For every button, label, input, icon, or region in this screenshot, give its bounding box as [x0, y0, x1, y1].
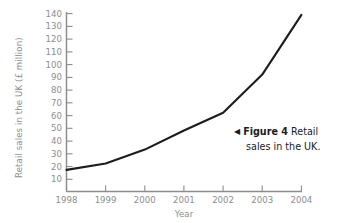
y-tick-label-110: 110 [46, 47, 62, 57]
x-tick-label-2000: 2000 [134, 195, 156, 205]
figure-container: Retail sales in the UK (£ million) 10 20 [0, 0, 357, 223]
y-tick-label-130: 130 [46, 21, 62, 31]
x-tick-label-2003: 2003 [251, 195, 273, 205]
y-tick-label-60: 60 [51, 111, 62, 121]
x-tick-label-2001: 2001 [173, 195, 195, 205]
caption-line-2: sales in the UK. [234, 139, 352, 154]
y-tick-label-70: 70 [51, 98, 62, 108]
y-tick-label-50: 50 [51, 123, 62, 133]
y-tick-label-140: 140 [46, 9, 62, 19]
y-tick-label-30: 30 [51, 149, 62, 159]
x-tick-label-2004: 2004 [290, 195, 312, 205]
caption-text-second: sales in the UK. [246, 141, 320, 152]
y-axis-title: Retail sales in the UK (£ million) [14, 37, 24, 178]
x-tick-label-1999: 1999 [95, 195, 117, 205]
caption-line-1: ◀Figure 4 Retail [234, 124, 352, 139]
triangle-left-icon: ◀ [234, 124, 240, 139]
y-tick-label-20: 20 [51, 162, 62, 172]
caption-text-first: Retail [291, 126, 318, 137]
x-axis-tick-labels: 1998 1999 2000 2001 2002 2003 2004 [56, 195, 313, 205]
x-tick-label-2002: 2002 [212, 195, 234, 205]
y-axis-tick-labels: 10 20 30 40 50 60 70 80 90 100 110 120 1… [46, 9, 62, 185]
y-tick-label-10: 10 [51, 174, 62, 184]
y-tick-label-90: 90 [51, 72, 62, 82]
y-tick-label-100: 100 [46, 60, 62, 70]
y-axis-ticks [67, 14, 73, 180]
y-tick-label-80: 80 [51, 85, 62, 95]
y-tick-label-120: 120 [46, 34, 62, 44]
x-tick-label-1998: 1998 [56, 195, 78, 205]
y-tick-label-40: 40 [51, 136, 62, 146]
x-axis-ticks [67, 186, 302, 192]
caption-figure-label: Figure 4 [243, 126, 288, 137]
x-axis-title: Year [174, 209, 194, 219]
figure-caption: ◀Figure 4 Retail sales in the UK. [234, 124, 352, 154]
line-chart: Retail sales in the UK (£ million) 10 20 [0, 0, 357, 223]
